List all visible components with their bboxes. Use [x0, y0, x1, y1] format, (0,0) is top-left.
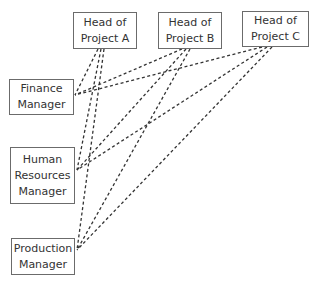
connection-b-production [77, 49, 190, 250]
matrix-structure-diagram: Head of Project A Head of Project B Head… [0, 0, 317, 284]
production-manager-box: Production Manager [11, 238, 75, 275]
box-label-line: Human [23, 152, 63, 168]
box-label-line: Finance [20, 81, 62, 97]
box-label-line: Head of [169, 15, 212, 31]
connection-a-hr [77, 49, 101, 170]
connection-a-production [77, 49, 104, 250]
head-of-project-b-box: Head of Project B [158, 12, 222, 49]
connection-c-production [77, 47, 272, 250]
box-label-line: Head of [84, 15, 127, 31]
box-label-line: Manager [19, 257, 67, 273]
box-label-line: Manager [18, 184, 66, 200]
head-of-project-a-box: Head of Project A [73, 12, 137, 49]
finance-manager-box: Finance Manager [9, 79, 74, 115]
hr-manager-box: Human Resources Manager [10, 147, 75, 204]
head-of-project-c-box: Head of Project C [242, 11, 309, 47]
connection-a-finance [75, 49, 98, 95]
box-label-line: Head of [254, 13, 297, 29]
box-label-line: Resources [14, 168, 70, 184]
box-label-line: Project C [251, 29, 300, 45]
box-label-line: Project A [81, 31, 130, 47]
box-label-line: Production [14, 241, 73, 257]
box-label-line: Project B [166, 31, 215, 47]
box-label-line: Manager [17, 97, 65, 113]
